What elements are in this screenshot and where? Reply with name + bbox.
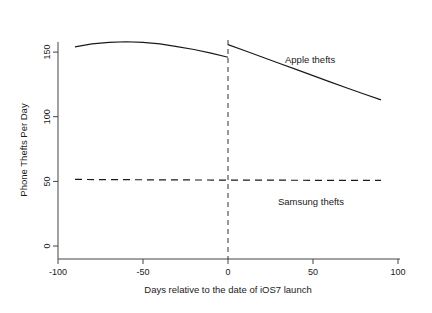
x-tick-label-100: 100	[390, 267, 405, 277]
y-tick-label-50: 50	[42, 176, 52, 186]
chart-figure: 0 50 100 150 Phone Thefts Per Day -100 -…	[0, 0, 432, 313]
x-tick-label--50: -50	[136, 267, 149, 277]
y-axis-title: Phone Thefts Per Day	[18, 103, 29, 197]
x-tick-label--100: -100	[49, 267, 67, 277]
y-tick-label-150: 150	[42, 45, 52, 60]
apple-series-label: Apple thefts	[285, 54, 335, 65]
x-axis-title: Days relative to the date of iOS7 launch	[144, 284, 311, 295]
chart-canvas: 0 50 100 150 Phone Thefts Per Day -100 -…	[0, 0, 432, 313]
y-tick-label-100: 100	[42, 109, 52, 124]
y-tick-label-0: 0	[42, 243, 52, 248]
x-tick-label-50: 50	[308, 267, 318, 277]
samsung-series-label: Samsung thefts	[278, 196, 344, 207]
x-tick-label-0: 0	[225, 267, 230, 277]
